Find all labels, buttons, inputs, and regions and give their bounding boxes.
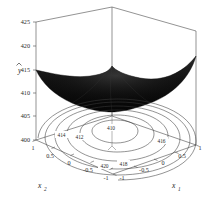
z-tick-400: 400 [21, 136, 30, 143]
contour-label-414: 414 [57, 132, 65, 138]
z-axis-ticks [33, 22, 36, 140]
contour-label-410: 410 [107, 125, 115, 131]
response-surface [36, 56, 196, 112]
z-tick-420: 420 [21, 42, 30, 49]
contour-label-420: 420 [100, 163, 108, 169]
z-axis-label-text: y [17, 66, 22, 75]
x1-tick--0.5: -0.5 [139, 166, 149, 173]
surface-plot-figure: 400 405 410 415 420 425 y [0, 0, 206, 202]
x2-tick-0.5: 0.5 [46, 152, 54, 159]
x2-axis-label: x 2 [37, 181, 47, 192]
contour-label-416: 416 [157, 138, 165, 144]
contour-412 [80, 115, 154, 152]
x1-axis-label-base: x [171, 181, 176, 190]
z-tick-405: 405 [21, 112, 30, 119]
z-axis-label: y [17, 63, 23, 75]
box-top-back-edges [36, 7, 196, 31]
contour-label-418: 418 [119, 161, 127, 167]
surface-highlight [36, 56, 196, 112]
z-tick-415: 415 [21, 66, 30, 73]
x1-tick--1: -1 [119, 174, 124, 181]
x1-tick-0: 0 [161, 159, 164, 166]
plot-canvas: 400 405 410 415 420 425 y [0, 0, 206, 202]
z-tick-410: 410 [21, 89, 30, 96]
x1-axis-label: x 1 [171, 181, 181, 192]
x2-axis-label-base: x [37, 181, 42, 190]
z-tick-425: 425 [21, 18, 30, 25]
x1-tick-0.5: 0.5 [178, 152, 186, 159]
x2-tick--0.5: -0.5 [83, 166, 93, 173]
contour-label-412: 412 [75, 134, 83, 140]
x2-tick--1: -1 [103, 174, 108, 181]
x2-tick-0: 0 [67, 159, 70, 166]
x1-axis-label-sub: 1 [178, 186, 181, 192]
x2-tick-1: 1 [31, 144, 34, 151]
x2-axis-label-sub: 2 [44, 186, 47, 192]
contour-410 [92, 120, 138, 143]
x1-tick-1: 1 [198, 144, 201, 151]
